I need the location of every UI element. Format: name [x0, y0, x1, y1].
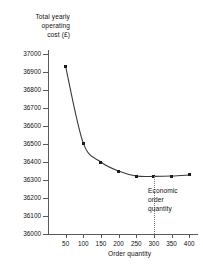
chart-canvas: Total yearly operating cost (£) 37000369… — [0, 0, 203, 269]
data-point-marker — [135, 175, 138, 178]
data-point-marker — [170, 175, 173, 178]
data-point-marker — [117, 170, 120, 173]
eoq-label-line-1: Economic — [148, 186, 200, 195]
eoq-label-line-3: quantity — [148, 204, 200, 213]
x-axis-title: Order quantity — [108, 250, 151, 257]
data-point-marker — [82, 142, 85, 145]
eoq-label-line-2: order — [148, 195, 200, 204]
data-point-marker — [64, 65, 67, 68]
data-point-marker — [99, 161, 102, 164]
eoq-annotation-label: Economic order quantity — [148, 186, 200, 214]
data-point-marker — [188, 173, 191, 176]
series-line — [0, 0, 203, 269]
